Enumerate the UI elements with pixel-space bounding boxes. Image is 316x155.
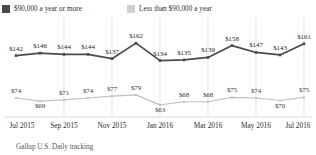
source-note: Gallup U.S. Daily tracking bbox=[16, 143, 93, 151]
data-label: $69 bbox=[35, 102, 45, 110]
data-point-marker[interactable] bbox=[207, 56, 210, 59]
data-label: $75 bbox=[227, 86, 237, 94]
data-point-marker[interactable] bbox=[87, 53, 90, 56]
plot-area: $142$146$144$144$137$162$134$135$139$158… bbox=[0, 17, 316, 118]
data-label: $147 bbox=[249, 41, 263, 49]
x-axis-tick-label: Jul 2016 bbox=[286, 121, 311, 130]
square-marker-icon bbox=[127, 5, 135, 13]
data-label: $71 bbox=[59, 89, 69, 97]
x-axis-tick-label: May 2016 bbox=[241, 121, 271, 130]
data-label: $146 bbox=[33, 42, 47, 50]
data-point-marker[interactable] bbox=[183, 101, 185, 103]
data-point-marker[interactable] bbox=[183, 59, 186, 62]
data-label: $77 bbox=[107, 85, 117, 93]
data-point-marker[interactable] bbox=[63, 99, 65, 101]
data-label: $68 bbox=[179, 91, 189, 99]
data-point-marker[interactable] bbox=[279, 54, 282, 57]
x-axis: Jul 2015Sep 2015Nov 2015Jan 2016Mar 2016… bbox=[0, 119, 316, 135]
data-point-marker[interactable] bbox=[111, 57, 114, 60]
data-label: $135 bbox=[177, 49, 191, 57]
legend-label-low-income: Less than $90,000 a year bbox=[139, 5, 212, 13]
data-point-marker[interactable] bbox=[63, 53, 66, 56]
data-point-marker[interactable] bbox=[255, 51, 258, 54]
chart-svg bbox=[0, 17, 316, 118]
x-axis-tick-label: Mar 2016 bbox=[194, 121, 223, 130]
data-label: $161 bbox=[297, 33, 311, 41]
data-label: $137 bbox=[105, 48, 119, 56]
x-axis-tick-label: Jul 2015 bbox=[10, 121, 35, 130]
legend-label-high-income: $90,000 a year or more bbox=[14, 5, 82, 13]
data-label: $162 bbox=[129, 32, 143, 40]
data-label: $75 bbox=[299, 86, 309, 94]
data-label: $70 bbox=[275, 102, 285, 110]
data-point-marker[interactable] bbox=[111, 95, 113, 97]
data-label: $74 bbox=[83, 87, 93, 95]
data-point-marker[interactable] bbox=[135, 42, 138, 45]
data-label: $143 bbox=[273, 44, 287, 52]
data-label: $63 bbox=[155, 106, 165, 114]
data-point-marker[interactable] bbox=[135, 94, 137, 96]
data-label: $79 bbox=[131, 84, 141, 92]
square-marker-icon bbox=[2, 5, 10, 13]
data-label: $74 bbox=[11, 87, 21, 95]
data-label: $74 bbox=[251, 87, 261, 95]
x-axis-tick-label: Jan 2016 bbox=[147, 121, 173, 130]
data-point-marker[interactable] bbox=[39, 52, 42, 55]
data-label: $144 bbox=[57, 43, 71, 51]
data-point-marker[interactable] bbox=[87, 97, 89, 99]
data-point-marker[interactable] bbox=[15, 97, 17, 99]
data-point-marker[interactable] bbox=[159, 59, 162, 62]
chart-container: $90,000 a year or more Less than $90,000… bbox=[0, 0, 316, 155]
data-label: $158 bbox=[225, 35, 239, 43]
chart-footer: Gallup U.S. Daily tracking bbox=[0, 138, 316, 155]
legend-item-low-income[interactable]: Less than $90,000 a year bbox=[127, 0, 212, 17]
data-point-marker[interactable] bbox=[207, 101, 209, 103]
legend-item-high-income[interactable]: $90,000 a year or more bbox=[2, 0, 82, 17]
chart-legend: $90,000 a year or more Less than $90,000… bbox=[0, 0, 316, 17]
data-label: $134 bbox=[153, 50, 167, 58]
data-point-marker[interactable] bbox=[15, 54, 18, 57]
data-label: $142 bbox=[9, 45, 23, 53]
x-axis-tick-label: Nov 2015 bbox=[98, 121, 127, 130]
data-point-marker[interactable] bbox=[231, 44, 234, 47]
data-point-marker[interactable] bbox=[231, 96, 233, 98]
data-label: $144 bbox=[81, 43, 95, 51]
data-point-marker[interactable] bbox=[255, 97, 257, 99]
data-point-marker[interactable] bbox=[303, 96, 305, 98]
x-axis-tick-label: Sep 2015 bbox=[50, 121, 77, 130]
data-label: $68 bbox=[203, 91, 213, 99]
data-label: $139 bbox=[201, 46, 215, 54]
data-point-marker[interactable] bbox=[303, 42, 306, 45]
